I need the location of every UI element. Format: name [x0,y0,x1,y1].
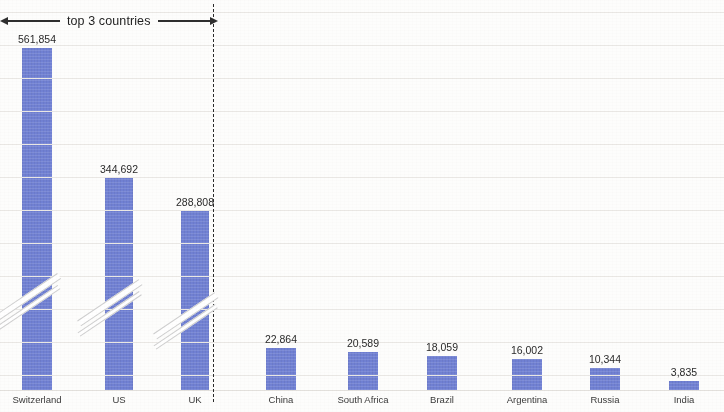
gridline [0,210,724,211]
arrow-left-icon [0,15,60,27]
gridline [0,78,724,79]
top-three-annotation: top 3 countries [0,10,213,32]
arrow-right-icon [158,15,218,27]
bar-value-label: 18,059 [402,341,482,353]
group-divider [213,4,214,402]
bar[interactable] [348,352,378,390]
category-label: Switzerland [0,394,82,405]
bar[interactable] [669,381,699,390]
bar-value-label: 288,808 [155,196,235,208]
gridline [0,375,724,376]
gridline [0,144,724,145]
bar[interactable] [590,368,620,390]
bar-value-label: 16,002 [487,344,567,356]
chart-baseline [0,390,724,391]
gridline [0,111,724,112]
category-label: UK [150,394,240,405]
bar[interactable] [181,211,209,390]
bar[interactable] [22,48,52,390]
bar-value-label: 22,864 [241,333,321,345]
gridline [0,45,724,46]
gridline [0,177,724,178]
category-label: China [236,394,326,405]
top-three-label: top 3 countries [60,14,158,28]
bar[interactable] [427,356,457,390]
bar-value-label: 3,835 [644,366,724,378]
category-label: South Africa [318,394,408,405]
bar[interactable] [266,348,296,390]
category-label: Brazil [397,394,487,405]
bar-value-label: 20,589 [323,337,403,349]
category-label: Russia [560,394,650,405]
gridline [0,276,724,277]
bar-value-label: 561,854 [0,33,77,45]
bar-value-label: 344,692 [79,163,159,175]
bar-value-label: 10,344 [565,353,645,365]
category-label: India [639,394,724,405]
gridline [0,243,724,244]
category-label: Argentina [482,394,572,405]
bar-chart: top 3 countries 561,854Switzerland344,69… [0,0,724,412]
gridline [0,309,724,310]
